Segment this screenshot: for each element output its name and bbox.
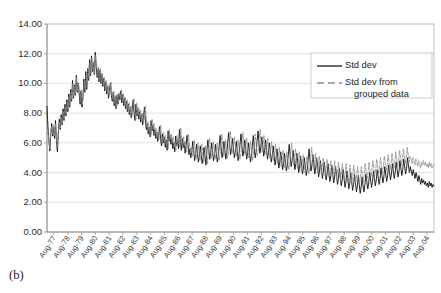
legend: Std devStd dev fromgrouped data (311, 53, 432, 99)
legend-label-std-dev: Std dev (345, 60, 377, 70)
figure-panel: 0.002.004.006.008.0010.0012.0014.00Aug-7… (0, 0, 441, 293)
x-axis-tick-labels: Aug-77Aug-78Aug-79Aug-80Aug-81Aug-82Aug-… (37, 234, 431, 259)
y-tick-label: 10.00 (18, 77, 42, 88)
y-tick-label: 2.00 (24, 196, 43, 207)
legend-label-std-dev-grouped: Std dev from (345, 77, 398, 87)
y-tick-label: 12.00 (18, 48, 42, 59)
y-tick-label: 4.00 (24, 167, 43, 178)
y-tick-label: 8.00 (24, 107, 43, 118)
y-axis-tick-labels: 0.002.004.006.008.0010.0012.0014.00 (18, 18, 47, 237)
y-tick-label: 0.00 (24, 226, 43, 237)
y-tick-label: 6.00 (24, 137, 43, 148)
chart-svg: 0.002.004.006.008.0010.0012.0014.00Aug-7… (0, 0, 441, 293)
y-tick-label: 14.00 (18, 18, 42, 29)
legend-label-std-dev-grouped-line2: grouped data (354, 89, 410, 99)
figure-caption: (b) (9, 268, 24, 283)
